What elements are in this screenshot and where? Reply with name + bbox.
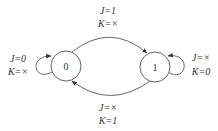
edge-0-to-1-label-j: J=1 bbox=[100, 5, 116, 16]
edge-1-to-0-label-j: J=× bbox=[99, 102, 117, 113]
edge-0-to-1 bbox=[72, 37, 147, 53]
edge-1-to-0-label-k: K=1 bbox=[98, 115, 117, 126]
edge-0-to-1-label-k: K=× bbox=[97, 18, 118, 29]
state-1: 1 bbox=[140, 52, 170, 82]
state-0-label: 0 bbox=[64, 61, 69, 72]
self-loop-1-label-k: K=0 bbox=[191, 66, 210, 77]
self-loop-1-label-j: J=× bbox=[192, 52, 210, 63]
state-0: 0 bbox=[51, 51, 81, 81]
self-loop-0 bbox=[36, 56, 52, 74]
self-loop-0-label-k: K=× bbox=[7, 66, 28, 77]
self-loop-1 bbox=[168, 56, 184, 75]
state-diagram: 0 1 J=1 K=× J=× K=1 J=0 K=× J=× K=0 bbox=[0, 0, 218, 131]
state-1-label: 1 bbox=[153, 62, 158, 73]
edge-1-to-0 bbox=[72, 81, 150, 96]
self-loop-0-label-j: J=0 bbox=[10, 53, 26, 64]
